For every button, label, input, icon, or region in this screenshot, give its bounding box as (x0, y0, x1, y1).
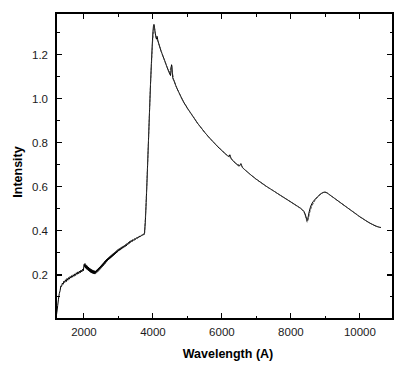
x-tick-label: 6000 (209, 326, 235, 338)
x-tick-label: 8000 (278, 326, 304, 338)
x-axis-title: Wavelength (A) (183, 347, 274, 361)
y-tick-label: 0.8 (32, 137, 48, 149)
y-tick-label: 0.4 (32, 225, 49, 237)
y-tick-label: 0.6 (32, 181, 48, 193)
y-axis-title: Intensity (11, 146, 25, 197)
plot-canvas: 200040006000800010000 0.20.40.60.81.01.2… (0, 0, 411, 373)
x-tick-label: 2000 (71, 326, 97, 338)
x-tick-label: 4000 (140, 326, 166, 338)
y-tick-label: 1.0 (32, 93, 48, 105)
spectrum-figure: 200040006000800010000 0.20.40.60.81.01.2… (0, 0, 411, 373)
x-tick-label: 10000 (344, 326, 376, 338)
y-tick-label: 1.2 (32, 49, 48, 61)
y-tick-label: 0.2 (32, 269, 48, 281)
